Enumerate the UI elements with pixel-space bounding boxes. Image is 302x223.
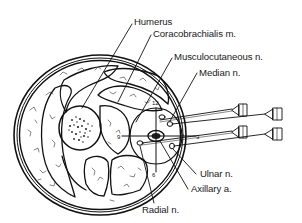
triceps-lateral	[85, 156, 109, 196]
posterior-muscle-band	[60, 66, 118, 112]
clock-6: 6	[152, 172, 156, 178]
triceps-medial	[111, 156, 148, 195]
label-ulnar: Ulnar n.	[200, 169, 233, 179]
label-median: Median n.	[199, 68, 240, 78]
label-radial: Radial n.	[142, 205, 179, 215]
coracobrachialis-muscle	[98, 86, 162, 111]
label-humerus: Humerus	[134, 17, 172, 27]
brachialis-region	[100, 106, 130, 154]
leader-humerus	[82, 24, 132, 108]
label-axillary: Axillary a.	[191, 184, 231, 194]
label-musculocutaneous: Musculocutaneous n.	[174, 52, 263, 62]
label-coracobrachialis: Coracobrachialis m.	[153, 29, 236, 39]
humerus-bone	[59, 106, 101, 150]
needle-1	[160, 104, 247, 122]
inner-band	[62, 156, 86, 190]
marrow-texture	[68, 116, 92, 143]
axilla-cross-section-diagram: 12 3 6 9	[0, 0, 302, 223]
clock-9: 9	[117, 134, 121, 140]
clock-12: 12	[152, 100, 159, 106]
musculocutaneous-nerve	[159, 115, 165, 119]
